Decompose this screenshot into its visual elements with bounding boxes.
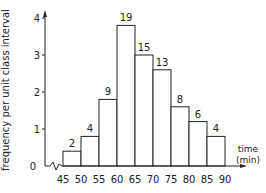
y-tick-label: 3 <box>34 50 40 61</box>
x-axis-label-line1: time <box>238 144 259 154</box>
x-tick-label: 80 <box>183 174 196 185</box>
bar-label: 4 <box>213 123 219 134</box>
x-axis-label-line2: (min) <box>236 155 260 165</box>
x-tick-label: 45 <box>57 174 70 185</box>
histogram-bar <box>189 122 207 166</box>
y-tick-label: 2 <box>34 87 40 98</box>
x-tick-label: 55 <box>93 174 106 185</box>
y-tick-label: 0 <box>30 161 36 172</box>
histogram-bar <box>117 25 135 166</box>
x-tick-label: 75 <box>165 174 178 185</box>
bar-label: 8 <box>177 94 183 105</box>
histogram-chart: 249191513864 01234 45505560657075808590 … <box>0 0 266 193</box>
bars: 249191513864 <box>63 12 225 166</box>
x-tick-label: 85 <box>201 174 214 185</box>
x-ticks: 45505560657075808590 <box>57 174 232 185</box>
bar-label: 13 <box>156 57 169 68</box>
y-axis-label: frequency per unit class interval <box>0 9 11 171</box>
histogram-bar <box>207 136 225 166</box>
histogram-bar <box>171 107 189 166</box>
bar-label: 2 <box>69 138 75 149</box>
x-tick-label: 70 <box>147 174 160 185</box>
bar-label: 19 <box>120 12 133 23</box>
bar-label: 9 <box>105 86 111 97</box>
x-tick-label: 50 <box>75 174 88 185</box>
y-axis-arrow-icon <box>43 10 47 17</box>
bar-label: 4 <box>87 123 93 134</box>
histogram-bar <box>63 151 81 166</box>
bar-label: 15 <box>138 42 151 53</box>
x-tick-label: 90 <box>219 174 232 185</box>
bar-label: 6 <box>195 109 201 120</box>
y-ticks: 01234 <box>30 13 45 172</box>
y-tick-label: 4 <box>34 13 40 24</box>
x-tick-label: 60 <box>111 174 124 185</box>
y-tick-label: 1 <box>34 124 40 135</box>
x-tick-label: 65 <box>129 174 142 185</box>
histogram-bar <box>135 55 153 166</box>
histogram-bar <box>81 136 99 166</box>
histogram-bar <box>153 70 171 166</box>
histogram-bar <box>99 99 117 166</box>
